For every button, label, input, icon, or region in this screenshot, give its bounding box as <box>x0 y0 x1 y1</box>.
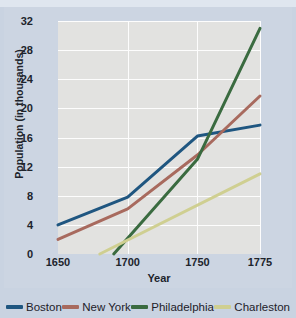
legend-label: Charleston <box>234 301 290 313</box>
line-swatch-icon <box>62 305 79 309</box>
series-line-new-york <box>58 96 260 239</box>
y-tick-label: 28 <box>0 45 33 56</box>
legend-item-philadelphia[interactable]: Philadelphia <box>131 301 214 313</box>
x-tick-label: 1750 <box>167 257 227 268</box>
legend-label: Boston <box>26 301 62 313</box>
x-tick-label: 1700 <box>98 257 158 268</box>
series-line-philadelphia <box>114 28 260 254</box>
x-tick-label: 1650 <box>28 257 88 268</box>
legend-item-new-york[interactable]: New York <box>62 301 131 313</box>
figure-top-band <box>0 0 296 7</box>
legend-label: Philadelphia <box>151 301 214 313</box>
y-tick-label: 24 <box>0 74 33 85</box>
y-tick-label: 8 <box>0 191 33 202</box>
x-axis-label: Year <box>58 272 260 284</box>
plot-area <box>58 21 260 254</box>
y-tick-label: 16 <box>0 133 33 144</box>
series-line-boston <box>58 125 260 225</box>
chart-legend: BostonNew YorkPhiladelphiaCharleston <box>0 296 296 318</box>
y-tick-label: 4 <box>0 220 33 231</box>
line-swatch-icon <box>131 305 148 309</box>
y-tick-label: 12 <box>0 162 33 173</box>
y-tick-label: 32 <box>0 16 33 27</box>
line-swatch-icon <box>6 305 23 309</box>
series-layer <box>58 21 260 254</box>
gridline-vertical <box>260 21 261 254</box>
legend-item-charleston[interactable]: Charleston <box>214 301 290 313</box>
series-line-charleston <box>100 174 260 254</box>
x-tick-label: 1775 <box>230 257 290 268</box>
legend-item-boston[interactable]: Boston <box>6 301 62 313</box>
chart-figure: Population (in thousands) Year 048121620… <box>0 0 296 318</box>
y-tick-label: 20 <box>0 103 33 114</box>
legend-label: New York <box>82 301 131 313</box>
line-swatch-icon <box>214 305 231 309</box>
